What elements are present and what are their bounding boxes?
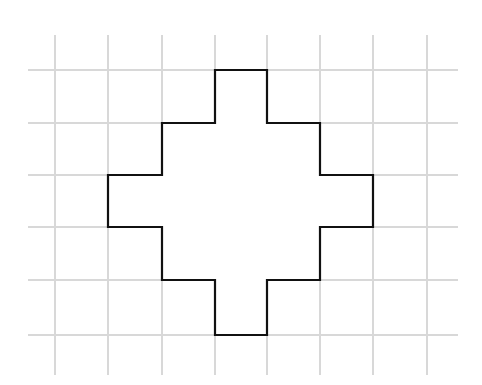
figure-canvas [0, 0, 482, 385]
grid-figure-svg [0, 0, 482, 385]
